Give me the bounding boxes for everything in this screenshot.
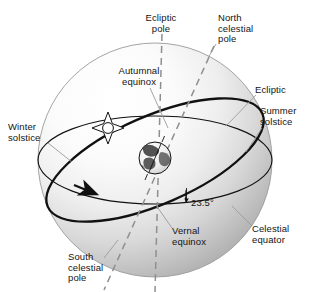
label-south-celestial-pole: South celestial pole [68,252,128,284]
label-tilt-angle: 23.5° [191,198,231,209]
label-winter-solstice: Winter solstice [8,122,66,143]
label-summer-solstice: Summer solstice [260,106,309,127]
label-ecliptic-pole: Ecliptic pole [126,13,196,34]
celestial-sphere-diagram: Ecliptic pole North celestial pole Autum… [0,0,309,292]
label-autumnal-equinox: Autumnal equinox [104,66,174,87]
label-vernal-equinox: Vernal equinox [172,226,232,247]
leader-north-celestial-pole [208,44,216,58]
label-north-celestial-pole: North celestial pole [218,13,292,45]
label-ecliptic: Ecliptic [255,85,309,96]
label-celestial-equator: Celestial equator [252,224,309,245]
